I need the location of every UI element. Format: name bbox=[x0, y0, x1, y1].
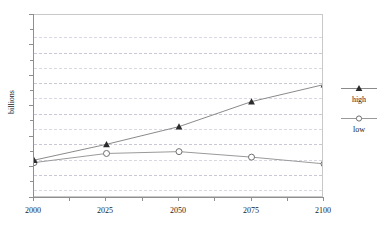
chart-legend: high low bbox=[341, 78, 383, 138]
x-tickmark-2050 bbox=[178, 197, 179, 201]
filled-triangle-icon bbox=[341, 84, 377, 93]
x-tick-label-2050: 2050 bbox=[158, 207, 198, 215]
series-markers-low bbox=[34, 149, 323, 167]
y-tickmark-5 bbox=[29, 166, 33, 167]
y-axis-title: billions bbox=[8, 72, 16, 132]
data-point-marker bbox=[176, 123, 183, 129]
legend-label-high: high bbox=[341, 95, 377, 104]
x-tickmark-2025 bbox=[105, 197, 106, 201]
data-point-marker bbox=[321, 81, 323, 87]
x-tick-label-2000: 2000 bbox=[13, 207, 53, 215]
line-chart: billions 30 25 20 15 10 5 0 bbox=[0, 0, 383, 226]
y-axis-line bbox=[33, 14, 34, 197]
y-tickmark-25 bbox=[29, 44, 33, 45]
y-tickmark-17p5 bbox=[30, 90, 33, 91]
y-tickmark-20 bbox=[29, 75, 33, 76]
data-point-marker bbox=[176, 149, 182, 155]
data-point-marker bbox=[321, 161, 323, 167]
y-tickmark-7p5 bbox=[30, 151, 33, 152]
x-tickmark-2000 bbox=[33, 197, 34, 201]
x-tick-label-2025: 2025 bbox=[85, 207, 125, 215]
open-circle-icon bbox=[341, 114, 377, 123]
y-tickmark-27p5 bbox=[30, 29, 33, 30]
x-tickmark-2087 bbox=[287, 197, 288, 201]
x-tick-label-2075: 2075 bbox=[231, 207, 271, 215]
data-point-marker bbox=[249, 154, 255, 160]
x-tickmark-2100 bbox=[323, 197, 324, 201]
y-tickmark-30 bbox=[29, 14, 33, 15]
series-canvas bbox=[34, 15, 323, 197]
y-tickmark-22p5 bbox=[30, 60, 33, 61]
legend-entry-low[interactable]: low bbox=[341, 108, 383, 138]
y-tickmark-2p5 bbox=[30, 181, 33, 182]
x-tickmark-2075 bbox=[251, 197, 252, 201]
chart-title bbox=[33, 0, 323, 1]
legend-entry-high[interactable]: high bbox=[341, 78, 383, 108]
y-tickmark-12p5 bbox=[30, 120, 33, 121]
x-tickmark-2062 bbox=[214, 197, 215, 201]
y-tickmark-15 bbox=[29, 105, 33, 106]
x-tickmark-2012 bbox=[69, 197, 70, 201]
x-tickmark-2037 bbox=[142, 197, 143, 201]
legend-label-low: low bbox=[341, 125, 377, 134]
x-tick-label-2100: 2100 bbox=[303, 207, 343, 215]
plot-area bbox=[33, 14, 323, 197]
y-tickmark-10 bbox=[29, 136, 33, 137]
data-point-marker bbox=[104, 150, 110, 156]
